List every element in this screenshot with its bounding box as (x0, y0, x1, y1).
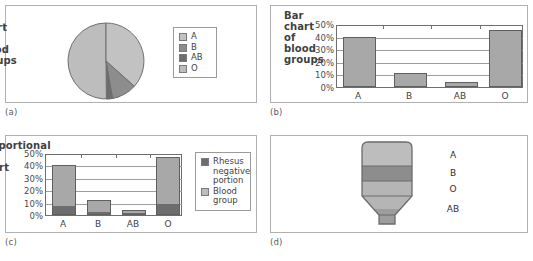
bag-segment-b-fill (354, 166, 420, 181)
c-plot-frame-top (46, 154, 182, 155)
xtick-2 (431, 25, 432, 29)
legend-swatch-rhesus-negative (201, 158, 209, 166)
bag-segment-ab-fill (354, 209, 420, 230)
legend-swatch-a (179, 33, 187, 41)
pie-chart-graphic (67, 22, 145, 100)
legend-item-o: O (179, 64, 211, 74)
c-bar-o-rhesus-negative (157, 204, 179, 214)
c-bar-b-rhesus-negative (88, 212, 110, 215)
c-bar-o (156, 157, 180, 215)
c-ytick-0: 0% (30, 211, 44, 221)
c-bar-b (87, 200, 111, 215)
plot-frame-right (522, 25, 523, 87)
blood-bag-graphic: A B O AB (354, 140, 420, 230)
plot-frame-top (337, 25, 523, 26)
bar-ab (445, 82, 478, 87)
bag-label-ab: AB (420, 204, 486, 214)
bar-chart-b-plot (336, 25, 523, 88)
xlabel-ab: AB (454, 91, 466, 101)
bag-label-a: A (420, 150, 486, 160)
legend-label-o: O (191, 64, 198, 74)
legend-label-b: B (191, 43, 197, 53)
c-xtick-2 (116, 154, 117, 158)
c-ytick-40: 40% (24, 161, 43, 171)
c-xtick-3 (150, 154, 151, 158)
bag-label-o: O (420, 184, 486, 194)
c-bar-ab-rhesus-negative (123, 213, 145, 214)
c-xlabel-o: O (164, 219, 171, 229)
c-bar-ab (122, 210, 146, 215)
ytick-40: 40% (315, 33, 334, 43)
ytick-10: 10% (315, 70, 334, 80)
c-xlabel-ab: AB (127, 219, 139, 229)
bar-o (489, 30, 522, 87)
xlabel-o: O (501, 91, 508, 101)
c-bar-a (52, 165, 76, 215)
c-xlabel-a: A (60, 219, 66, 229)
legend-swatch-o (179, 65, 187, 73)
panel-caption-b: (b) (270, 107, 283, 117)
panel-caption-a: (a) (5, 107, 17, 117)
c-xtick-1 (81, 154, 82, 158)
ytick-50: 50% (315, 20, 334, 30)
panel-caption-d: (d) (270, 237, 283, 247)
legend-label-a: A (191, 32, 197, 42)
bar-b (394, 73, 427, 87)
figure-grid: Pie chart of blood groups A B (0, 0, 533, 261)
proportional-bar-chart-legend: Rhesus negative portion Blood group (195, 152, 251, 211)
c-ytick-20: 20% (24, 186, 43, 196)
blood-bag-svg (354, 140, 420, 230)
legend-item-blood-group: Blood group (201, 187, 245, 206)
legend-swatch-ab (179, 54, 187, 62)
legend-item-b: B (179, 43, 211, 53)
c-bar-a-rhesus-negative (53, 206, 75, 214)
ytick-0: 0% (321, 83, 335, 93)
xlabel-b: B (406, 91, 412, 101)
legend-label-rhesus-negative: Rhesus negative portion (213, 157, 250, 186)
xlabel-a: A (355, 91, 361, 101)
panel-caption-c: (c) (5, 237, 17, 247)
legend-label-blood-group: Blood group (213, 187, 245, 206)
bag-segment-o-fill (354, 181, 420, 209)
xtick-3 (480, 25, 481, 29)
legend-swatch-b (179, 44, 187, 52)
bar-a (343, 37, 376, 87)
legend-item-ab: AB (179, 53, 211, 63)
ytick-30: 30% (315, 45, 334, 55)
ytick-20: 20% (315, 58, 334, 68)
pie-chart-legend: A B AB O (173, 27, 217, 78)
xtick-1 (383, 25, 384, 29)
legend-label-ab: AB (191, 53, 203, 63)
bar-chart-c-plot (45, 154, 182, 216)
c-xlabel-b: B (95, 219, 101, 229)
pie-svg (67, 22, 145, 100)
legend-item-rhesus-negative: Rhesus negative portion (201, 157, 245, 186)
c-plot-frame-right (181, 154, 182, 215)
c-ytick-30: 30% (24, 174, 43, 184)
c-ytick-50: 50% (24, 149, 43, 159)
legend-swatch-blood-group (201, 188, 209, 196)
c-ytick-10: 10% (24, 199, 43, 209)
legend-item-a: A (179, 32, 211, 42)
bag-label-b: B (420, 168, 486, 178)
